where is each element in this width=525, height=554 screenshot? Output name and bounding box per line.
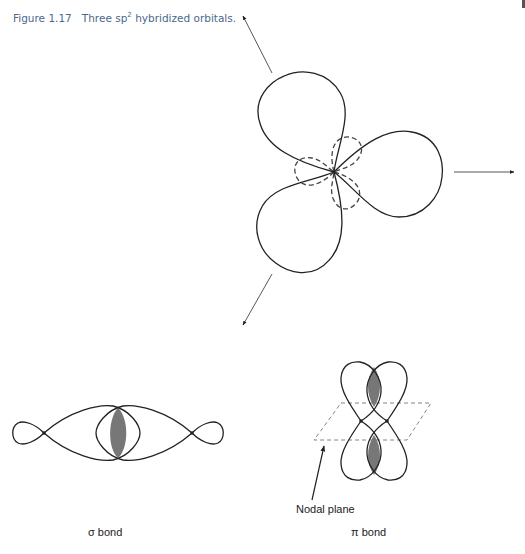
pi-overlap-shading-bottom [368,435,380,475]
sp2-backlobe-upper-right [323,131,366,179]
sigma-nucleus-right [190,431,194,435]
pi-nucleus-left [359,419,363,423]
arrow-upper-left [243,16,272,73]
sp2-lobe-upper-left [244,56,373,193]
sigma-small-lobe-right [192,422,223,444]
sp2-backlobe-lower-right [322,165,365,213]
sigma-small-lobe-left [13,422,44,444]
nodal-plane-label: Nodal plane [296,503,355,515]
sigma-overlap-shading [110,408,126,458]
arrow-lower-left [243,274,272,325]
pi-bond-label: π bond [351,526,386,538]
pi-nucleus-right [385,419,389,423]
sp2-lobe-right [334,131,442,217]
nodal-plane-pointer-arrow [312,446,324,500]
nucleus-dot [332,170,335,173]
pi-overlap-shading-top [368,367,380,407]
sigma-bond-label: σ bond [88,526,122,538]
orbital-diagrams [0,0,525,554]
pi-bond-diagram [312,362,431,500]
sp2-orbitals [241,16,514,325]
sigma-nucleus-left [42,431,46,435]
sp2-backlobe-left [295,158,334,185]
sp2-lobe-lower-left [241,150,370,287]
sigma-bond-diagram [13,406,224,461]
